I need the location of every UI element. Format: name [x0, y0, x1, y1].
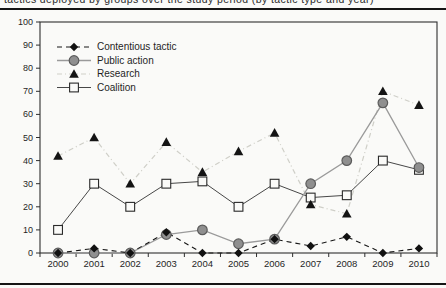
y-tick-label: 50 [23, 133, 33, 143]
bottom-horizontal-rule [0, 283, 446, 285]
x-tick-label: 2004 [192, 258, 213, 269]
legend-label: Public action [97, 55, 154, 66]
advocacy-tactics-line-chart: 0102030405060708090100200020012002200320… [0, 0, 446, 288]
x-tick-label: 2003 [156, 258, 177, 269]
y-tick-label: 60 [23, 109, 33, 119]
triangle-marker [89, 133, 99, 142]
y-tick-label: 0 [28, 248, 33, 258]
diamond-marker [379, 249, 387, 257]
square-marker [234, 202, 243, 211]
legend-label: Coalition [97, 82, 136, 93]
legend-label: Research [97, 68, 140, 79]
circle-marker [414, 163, 424, 173]
square-marker [90, 179, 99, 188]
x-tick-label: 2000 [47, 258, 68, 269]
x-tick-label: 2002 [120, 258, 141, 269]
diamond-marker [415, 244, 423, 252]
square-marker [342, 191, 351, 200]
y-tick-label: 20 [23, 202, 33, 212]
series-line-coalition [58, 161, 419, 230]
circle-marker [198, 225, 208, 235]
y-axis: 0102030405060708090100 [18, 17, 40, 258]
y-tick-label: 90 [23, 40, 33, 50]
y-tick-label: 80 [23, 63, 33, 73]
triangle-marker [414, 100, 424, 109]
x-tick-label: 2008 [336, 258, 357, 269]
triangle-marker [53, 151, 63, 160]
series-markers-research [53, 87, 424, 218]
diamond-marker [234, 249, 242, 257]
x-tick-label: 2005 [228, 258, 249, 269]
diamond-marker [306, 242, 314, 250]
triangle-marker [234, 147, 244, 156]
x-tick-label: 2010 [408, 258, 429, 269]
legend-label: Contentious tactic [97, 41, 177, 52]
circle-marker [69, 56, 79, 66]
circle-marker [342, 156, 352, 166]
square-marker [70, 83, 79, 92]
y-tick-label: 70 [23, 86, 33, 96]
square-marker [162, 179, 171, 188]
triangle-marker [378, 87, 388, 96]
legend: Contentious tacticPublic actionResearchC… [57, 41, 177, 93]
y-tick-label: 100 [18, 17, 33, 27]
y-tick-label: 30 [23, 179, 33, 189]
circle-marker [234, 239, 244, 249]
triangle-marker [270, 128, 280, 137]
x-tick-label: 2007 [300, 258, 321, 269]
triangle-marker [162, 137, 172, 146]
scanned-figure-page: tactics deployed by groups over the stud… [0, 0, 446, 288]
square-marker [198, 177, 207, 186]
square-marker [126, 202, 135, 211]
x-tick-label: 2006 [264, 258, 285, 269]
y-tick-label: 40 [23, 156, 33, 166]
circle-marker [306, 179, 316, 189]
square-marker [54, 226, 63, 235]
x-tick-label: 2009 [372, 258, 393, 269]
circle-marker [378, 98, 388, 108]
square-marker [270, 179, 279, 188]
y-tick-label: 10 [23, 225, 33, 235]
series-markers-public-action [53, 98, 424, 258]
series-markers-coalition [54, 156, 424, 234]
diamond-marker [198, 249, 206, 257]
x-tick-label: 2001 [84, 258, 105, 269]
diamond-marker [70, 43, 78, 51]
diamond-marker [343, 233, 351, 241]
square-marker [378, 156, 387, 165]
